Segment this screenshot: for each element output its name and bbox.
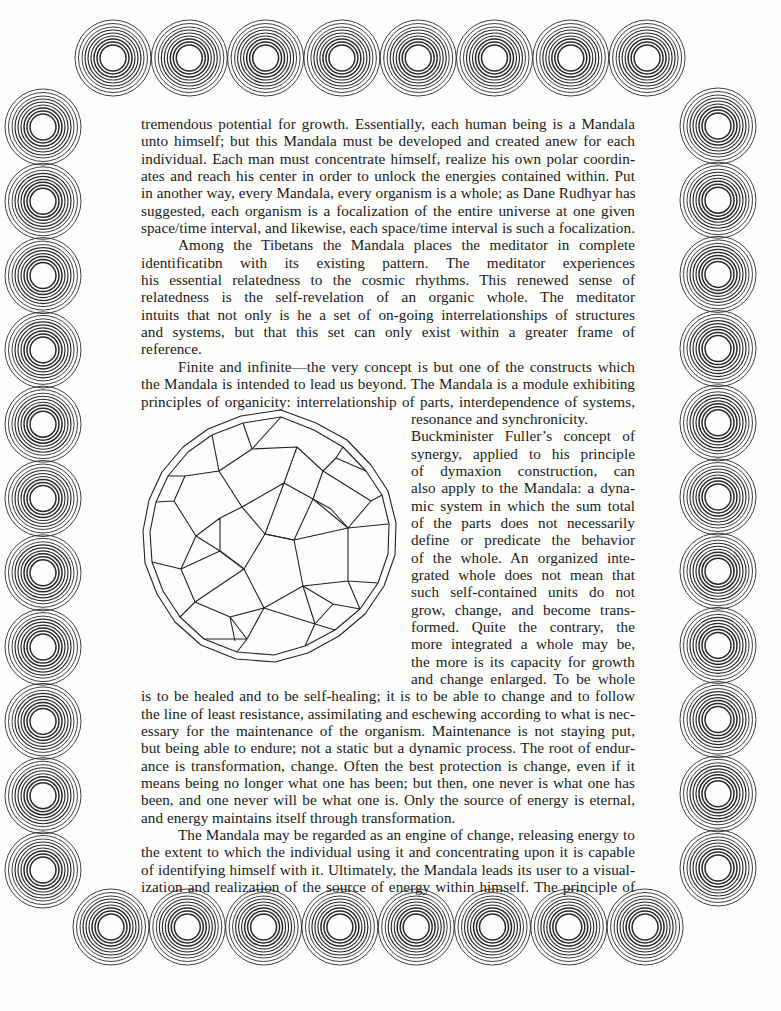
text-line: tremendous potential for growth. Essenti… — [141, 115, 635, 132]
concentric-circle-medallion — [75, 20, 151, 96]
text-line: is to be healed and to be self-healing; … — [141, 687, 635, 704]
concentric-circle-medallion — [73, 889, 149, 965]
text-line: identificatibn with its existing pattern… — [141, 254, 635, 271]
concentric-circle-medallion — [609, 20, 685, 96]
concentric-circle-medallion — [533, 20, 609, 96]
text-line: grated whole does not mean that — [411, 566, 635, 583]
concentric-circle-medallion — [680, 682, 756, 758]
text-wrap-column: resonance and synchronicity. Buckministe… — [141, 410, 635, 688]
text-line: formed. Quite the contrary, the — [411, 618, 635, 635]
concentric-circle-medallion — [5, 832, 81, 908]
concentric-circle-medallion — [680, 459, 756, 535]
text-line: The Mandala may be regarded as an engine… — [141, 826, 635, 843]
text-line: of dymaxion construction, can — [411, 462, 635, 479]
text-line: grow, change, and become trans- — [411, 601, 635, 618]
paragraph-1: tremendous potential for growth. Essenti… — [141, 115, 635, 236]
concentric-circle-medallion — [680, 236, 756, 312]
paragraph-4: The Mandala may be regarded as an engine… — [141, 826, 635, 895]
text-line: means being no longer what one has been;… — [141, 774, 635, 791]
text-line: more integrated a whole may be, — [411, 635, 635, 652]
text-line: and change enlarged. To be whole — [411, 670, 635, 687]
concentric-circle-medallion — [5, 163, 81, 239]
concentric-circle-medallion — [5, 535, 81, 611]
text-line: essary for the maintenance of the organi… — [141, 722, 635, 739]
paragraph-2: Among the Tibetans the Mandala places th… — [141, 236, 635, 357]
book-page: tremendous potential for growth. Essenti… — [0, 0, 781, 1011]
text-line: the more is its capacity for growth — [411, 653, 635, 670]
text-line: define or predicate the behavior — [411, 531, 635, 548]
body-text: tremendous potential for growth. Essenti… — [141, 115, 635, 895]
text-line: individual. Each man must concentrate hi… — [141, 150, 635, 167]
text-line: space/time interval, and likewise, each … — [141, 219, 635, 236]
concentric-circle-medallion — [5, 386, 81, 462]
text-line: resonance and synchronicity. — [411, 410, 635, 427]
concentric-circle-medallion — [680, 162, 756, 238]
concentric-circle-medallion — [228, 20, 304, 96]
text-line: reference. — [141, 340, 635, 357]
text-line: Among the Tibetans the Mandala places th… — [141, 236, 635, 253]
concentric-circle-medallion — [680, 533, 756, 609]
text-line: suggested, each organism is a focalizati… — [141, 202, 635, 219]
text-line: relatedness is the self-revelation of an… — [141, 288, 635, 305]
text-line: ates and reach his center in order to un… — [141, 167, 635, 184]
concentric-circle-medallion — [457, 20, 533, 96]
concentric-circle-medallion — [680, 830, 756, 906]
text-line: the line of least resistance, assimilati… — [141, 705, 635, 722]
concentric-circle-medallion — [149, 889, 225, 965]
text-line: but being able to endure; not a static b… — [141, 739, 635, 756]
concentric-circle-medallion — [5, 89, 81, 165]
text-line: and energy maintains itself through tran… — [141, 809, 635, 826]
concentric-circle-medallion — [680, 311, 756, 387]
concentric-circle-medallion — [455, 889, 531, 965]
concentric-circle-medallion — [531, 889, 607, 965]
text-line: in another way, every Mandala, every org… — [141, 184, 635, 201]
text-line: ization and realization of the source of… — [141, 878, 635, 895]
concentric-circle-medallion — [380, 20, 456, 96]
text-line: Finite and infinite—the very concept is … — [141, 358, 635, 375]
concentric-circle-medallion — [151, 20, 227, 96]
text-line: been, and one never will be what one is.… — [141, 791, 635, 808]
text-line: of the parts does not necessarily — [411, 514, 635, 531]
text-line: the extent to which the individual using… — [141, 843, 635, 860]
concentric-circle-medallion — [680, 756, 756, 832]
concentric-circle-medallion — [5, 609, 81, 685]
concentric-circle-medallion — [680, 385, 756, 461]
text-line: also apply to the Mandala: a dyna- — [411, 479, 635, 496]
concentric-circle-medallion — [304, 20, 380, 96]
concentric-circle-medallion — [226, 889, 302, 965]
text-line: principles of organicity: interrelations… — [141, 393, 635, 410]
text-line: his essential relatedness to the cosmic … — [141, 271, 635, 288]
concentric-circle-medallion — [5, 683, 81, 759]
paragraph-3: Finite and infinite—the very concept is … — [141, 358, 635, 826]
concentric-circle-medallion — [680, 607, 756, 683]
text-line: mic system in which the sum total — [411, 497, 635, 514]
text-line: and systems, but that this set can only … — [141, 323, 635, 340]
concentric-circle-medallion — [5, 312, 81, 388]
text-line: intuits that not only is he a set of on-… — [141, 306, 635, 323]
text-line: ance is transformation, change. Often th… — [141, 757, 635, 774]
concentric-circle-medallion — [5, 758, 81, 834]
text-line: the Mandala is intended to lead us beyon… — [141, 375, 635, 392]
concentric-circle-medallion — [5, 461, 81, 537]
concentric-circle-medallion — [378, 889, 454, 965]
concentric-circle-medallion — [607, 889, 683, 965]
text-line: of identifying himself with it. Ultimate… — [141, 861, 635, 878]
text-line: Buckminister Fuller’s concept of — [411, 427, 635, 444]
concentric-circle-medallion — [5, 238, 81, 314]
concentric-circle-medallion — [680, 88, 756, 164]
concentric-circle-medallion — [302, 889, 378, 965]
text-line: unto himself; but this Mandala must be d… — [141, 132, 635, 149]
text-line: such self-contained units do not — [411, 583, 635, 600]
text-line: synergy, applied to his principle — [411, 445, 635, 462]
text-line: of the whole. An organized inte- — [411, 549, 635, 566]
